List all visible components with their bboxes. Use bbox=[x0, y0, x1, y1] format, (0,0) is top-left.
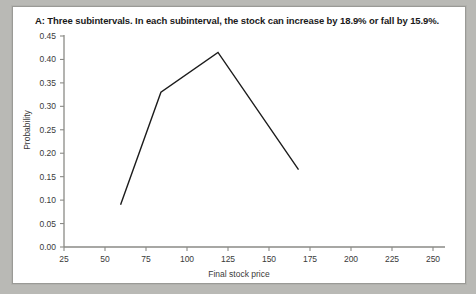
y-tick-label: 0.35 bbox=[13, 78, 56, 88]
y-tick-label: 0.30 bbox=[13, 101, 56, 111]
chart-svg bbox=[13, 7, 465, 283]
plot-area: 0.000.050.100.150.200.250.300.350.400.45… bbox=[13, 7, 465, 283]
y-tick-label: 0.15 bbox=[13, 172, 56, 182]
x-tick-label: 200 bbox=[335, 254, 367, 264]
y-tick-label: 0.10 bbox=[13, 195, 56, 205]
figure-panel: A: Three subintervals. In each subinterv… bbox=[12, 6, 466, 284]
x-tick-label: 75 bbox=[130, 254, 162, 264]
y-tick-label: 0.00 bbox=[13, 242, 56, 252]
x-tick-label: 175 bbox=[294, 254, 326, 264]
y-tick-label: 0.05 bbox=[13, 219, 56, 229]
y-axis-label: Probability bbox=[22, 110, 32, 150]
axes-group bbox=[60, 35, 445, 251]
series-group bbox=[121, 52, 299, 204]
data-series-line bbox=[121, 52, 299, 204]
y-tick-label: 0.20 bbox=[13, 148, 56, 158]
x-tick-label: 250 bbox=[417, 254, 449, 264]
y-tick-label: 0.45 bbox=[13, 31, 56, 41]
y-tick-label: 0.40 bbox=[13, 54, 56, 64]
y-tick-label: 0.25 bbox=[13, 125, 56, 135]
x-axis-label: Final stock price bbox=[13, 269, 465, 279]
x-tick-label: 150 bbox=[253, 254, 285, 264]
x-tick-label: 50 bbox=[89, 254, 121, 264]
x-tick-label: 100 bbox=[171, 254, 203, 264]
x-tick-label: 225 bbox=[376, 254, 408, 264]
x-tick-label: 25 bbox=[48, 254, 80, 264]
x-tick-label: 125 bbox=[212, 254, 244, 264]
